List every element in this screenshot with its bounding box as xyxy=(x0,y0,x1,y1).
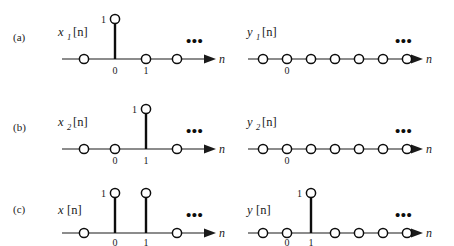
plot-x2-sample-nm1 xyxy=(79,144,88,153)
plot-x2-ellipsis: ••• xyxy=(186,123,203,139)
plot-x-tick-one: 1 xyxy=(144,237,149,246)
plot-x1-axis-label: n xyxy=(219,52,225,66)
plot-y2-sample-6 xyxy=(402,144,411,153)
plot-y1-sample-1 xyxy=(282,54,291,63)
plot-x-tick-zero: 0 xyxy=(113,237,118,246)
plot-y-sample-nm2 xyxy=(258,228,267,237)
plot-y2-tick-zero: 0 xyxy=(285,155,290,166)
plot-y1-sample-5 xyxy=(378,54,387,63)
plot-y1-axis-arrowhead xyxy=(411,55,423,64)
plot-x1-label-base: x xyxy=(57,25,64,39)
plot-x1-ellipsis: ••• xyxy=(186,33,203,49)
plot-x2-axis-label: n xyxy=(219,142,225,156)
plot-x2-amplitude-label: 1 xyxy=(132,104,137,115)
plot-y-tick-zero: 0 xyxy=(285,237,290,246)
plot-x-amplitude-label: 1 xyxy=(101,188,106,199)
plot-y1-axis-label: n xyxy=(426,52,432,66)
plot-x1-axis-arrowhead xyxy=(204,55,216,64)
plot-x-ellipsis: ••• xyxy=(186,207,203,223)
plot-y2: y 2 [n] n 0 ••• xyxy=(245,94,445,168)
signal-figure: (a) x 1 [n] n 1 0 1 ••• y 1 [n] xyxy=(0,0,454,246)
plot-x1-label-bracket: [n] xyxy=(73,25,88,39)
plot-x1-tick-one: 1 xyxy=(144,65,149,76)
plot-y2-sample-4 xyxy=(354,144,363,153)
plot-x-sample-nm1 xyxy=(79,228,88,237)
plot-y-tick-one: 1 xyxy=(309,237,314,246)
plot-y1-sample-2 xyxy=(306,54,315,63)
plot-x2: x 2 [n] n 1 0 1 ••• xyxy=(56,94,226,168)
plot-y2-sample-2 xyxy=(306,144,315,153)
plot-y2-sample-3 xyxy=(330,144,339,153)
plot-y-axis-label: n xyxy=(426,226,432,240)
plot-x2-sample-n1 xyxy=(141,104,150,113)
plot-y-sample-n4 xyxy=(378,228,387,237)
plot-y1-tick-zero: 0 xyxy=(285,65,290,76)
plot-y2-axis-label: n xyxy=(426,142,432,156)
plot-y-sample-n3 xyxy=(354,228,363,237)
plot-y-sample-n5 xyxy=(402,228,411,237)
plot-y2-sample-0 xyxy=(258,144,267,153)
plot-y-ellipsis: ••• xyxy=(395,207,412,223)
plot-y2-label-base: y xyxy=(245,115,253,129)
plot-x-sample-n0 xyxy=(110,188,119,197)
plot-x1: x 1 [n] n 1 0 1 ••• xyxy=(56,4,226,78)
plot-x-sample-n1 xyxy=(141,188,150,197)
plot-y-amplitude-label: 1 xyxy=(297,188,302,199)
plot-y-sample-n2 xyxy=(330,228,339,237)
plot-x2-tick-one: 1 xyxy=(144,155,149,166)
plot-y1-label-bracket: [n] xyxy=(262,25,277,39)
plot-x1-sample-n2 xyxy=(172,54,181,63)
plot-x1-sample-nm1 xyxy=(79,54,88,63)
plot-x2-label-sub: 2 xyxy=(67,122,72,132)
plot-y1-ellipsis: ••• xyxy=(395,33,412,49)
plot-y1-sample-4 xyxy=(354,54,363,63)
row-tag-a: (a) xyxy=(13,31,25,43)
plot-x2-sample-n0 xyxy=(110,144,119,153)
plot-y2-sample-1 xyxy=(282,144,291,153)
plot-x-axis-arrowhead xyxy=(204,229,216,238)
plot-x1-sample-n1 xyxy=(141,54,150,63)
plot-x2-label-base: x xyxy=(57,115,64,129)
plot-y2-label-bracket: [n] xyxy=(262,115,277,129)
plot-y1-sample-0 xyxy=(258,54,267,63)
plot-x-axis-label: n xyxy=(219,226,225,240)
plot-y1-label-sub: 1 xyxy=(256,32,260,42)
plot-x2-axis-arrowhead xyxy=(204,145,216,154)
plot-y2-sample-5 xyxy=(378,144,387,153)
plot-y-label-base: y xyxy=(245,203,253,217)
plot-y1-sample-6 xyxy=(402,54,411,63)
plot-y1: y 1 [n] n 0 ••• xyxy=(245,4,445,78)
plot-y-sample-n1 xyxy=(306,188,315,197)
plot-x1-label-sub: 1 xyxy=(67,32,71,42)
plot-x2-sample-n2 xyxy=(172,144,181,153)
plot-x1-tick-zero: 0 xyxy=(113,65,118,76)
plot-y2-axis-arrowhead xyxy=(411,145,423,154)
row-tag-c: (c) xyxy=(13,203,25,215)
plot-y: y [n] n 1 0 1 ••• xyxy=(245,182,445,246)
plot-x-label-base: x xyxy=(57,203,64,217)
plot-x: x [n] n 1 0 1 ••• xyxy=(56,182,226,246)
plot-x1-amplitude-label: 1 xyxy=(101,14,106,25)
plot-x1-sample-n0 xyxy=(110,14,119,23)
plot-y1-sample-3 xyxy=(330,54,339,63)
row-tag-b: (b) xyxy=(13,121,26,133)
plot-y1-label-base: y xyxy=(245,25,253,39)
plot-y2-ellipsis: ••• xyxy=(395,123,412,139)
plot-x2-tick-zero: 0 xyxy=(113,155,118,166)
plot-x2-label-bracket: [n] xyxy=(73,115,88,129)
plot-y2-label-sub: 2 xyxy=(256,122,261,132)
plot-x-label-bracket: [n] xyxy=(67,203,82,217)
plot-y-label-bracket: [n] xyxy=(256,203,271,217)
plot-x-sample-n2 xyxy=(172,228,181,237)
plot-y-axis-arrowhead xyxy=(411,229,423,238)
